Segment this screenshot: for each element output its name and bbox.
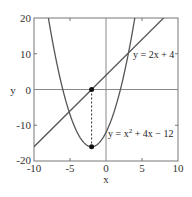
parabola-equation-label: y = x2 + 4x − 12 [108,127,173,139]
xtick-label: 5 [139,162,145,174]
parabola-series [38,0,146,147]
chart: 20 10 0 -10 -20 -10 -5 0 5 10 x y y = 2x… [0,0,192,197]
ytick-label: 10 [20,48,32,60]
ytick-label: 20 [20,12,32,24]
ytick-label: -10 [16,119,31,131]
y-axis-title: y [10,84,16,96]
xtick-label: 10 [173,162,185,174]
ytick-label: 0 [26,84,32,96]
vertex-point [89,144,94,149]
line-equation-label: y = 2x + 4 [133,49,174,60]
intersection-point [89,87,94,92]
xtick-label: -10 [27,162,42,174]
xtick-label: -5 [65,162,75,174]
x-axis-title: x [103,173,109,185]
